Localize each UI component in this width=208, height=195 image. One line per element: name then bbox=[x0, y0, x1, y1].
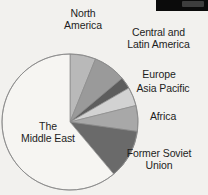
slice-label-middle-east-line1: The bbox=[15, 120, 81, 132]
slice-label-north-america-line1: North bbox=[55, 7, 111, 19]
slice-label-europe-line1: Europe bbox=[128, 68, 190, 80]
scan-artifact-block bbox=[156, 0, 208, 11]
slice-label-asia-pacific: Asia Pacific bbox=[123, 82, 203, 94]
slice-label-central-latin-america: Central and Latin America bbox=[111, 26, 206, 50]
slice-label-middle-east-line2: Middle East bbox=[15, 132, 81, 144]
slice-label-africa-line1: Africa bbox=[135, 110, 191, 122]
slice-label-central-latin-america-line2: Latin America bbox=[111, 38, 206, 50]
slice-label-former-soviet-union-line2: Union bbox=[112, 159, 206, 171]
slice-label-central-latin-america-line1: Central and bbox=[111, 26, 206, 38]
pie-chart-figure: North America Central and Latin America … bbox=[0, 0, 208, 195]
slice-label-former-soviet-union: Former Soviet Union bbox=[112, 147, 206, 171]
slice-label-europe: Europe bbox=[128, 68, 190, 80]
slice-label-former-soviet-union-line1: Former Soviet bbox=[112, 147, 206, 159]
slice-label-asia-pacific-line1: Asia Pacific bbox=[123, 82, 203, 94]
slice-label-middle-east: The Middle East bbox=[15, 120, 81, 144]
slice-label-north-america: North America bbox=[55, 7, 111, 31]
slice-label-africa: Africa bbox=[135, 110, 191, 122]
scan-artifact-smudge bbox=[182, 1, 204, 7]
slice-label-north-america-line2: America bbox=[55, 19, 111, 31]
